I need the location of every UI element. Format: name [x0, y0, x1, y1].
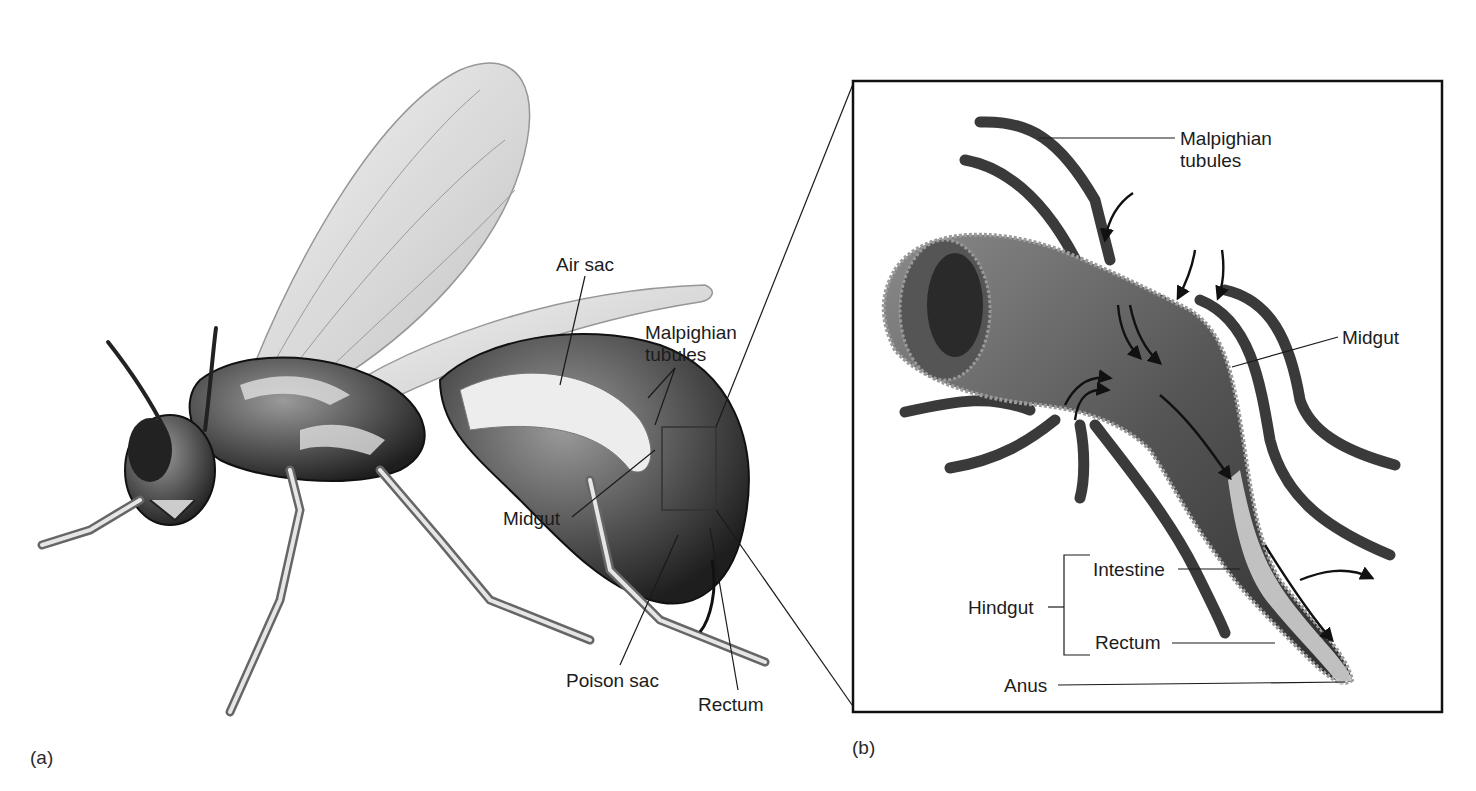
label-midgut-a: Midgut	[503, 508, 560, 530]
diagram-artwork	[0, 0, 1476, 791]
label-intestine: Intestine	[1093, 559, 1165, 581]
label-poison-sac: Poison sac	[566, 670, 659, 692]
label-rectum-a: Rectum	[698, 694, 763, 716]
insect-illustration	[42, 63, 765, 712]
label-malpighian-tubules-a: Malpighian tubules	[645, 322, 737, 366]
panel-tag-b: (b)	[852, 737, 875, 759]
figure-canvas: Air sac Malpighian tubules Midgut Poison…	[0, 0, 1476, 791]
label-anus: Anus	[1004, 675, 1047, 697]
abdomen-shape	[440, 334, 749, 603]
zoom-projection-lines	[716, 84, 857, 712]
label-air-sac: Air sac	[556, 254, 614, 276]
label-midgut-b: Midgut	[1342, 327, 1399, 349]
label-malpighian-tubules-b: Malpighian tubules	[1180, 128, 1272, 172]
label-rectum-b: Rectum	[1095, 632, 1160, 654]
panel-tag-a: (a)	[30, 747, 53, 769]
leg-mid	[230, 470, 300, 712]
label-hindgut: Hindgut	[968, 597, 1034, 619]
antenna-left	[108, 342, 165, 430]
tubule-8	[1080, 425, 1084, 498]
